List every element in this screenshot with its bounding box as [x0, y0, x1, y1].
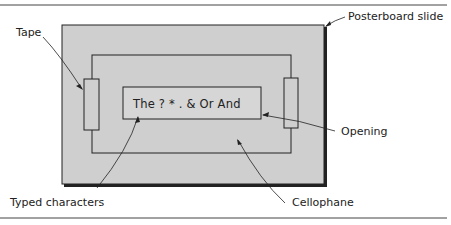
label-typed-characters: Typed characters	[10, 196, 104, 209]
label-tape: Tape	[16, 26, 41, 39]
label-opening: Opening	[341, 125, 387, 138]
tape-left	[84, 79, 99, 130]
posterboard-arrowhead	[325, 21, 331, 27]
slide-diagram	[0, 0, 451, 225]
typed-characters-text: The ? * . & Or And	[133, 97, 241, 111]
label-cellophane: Cellophane	[292, 196, 354, 209]
label-posterboard-slide: Posterboard slide	[348, 10, 443, 23]
